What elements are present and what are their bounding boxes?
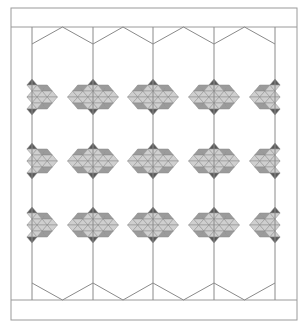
quilt-diagram — [0, 0, 307, 328]
